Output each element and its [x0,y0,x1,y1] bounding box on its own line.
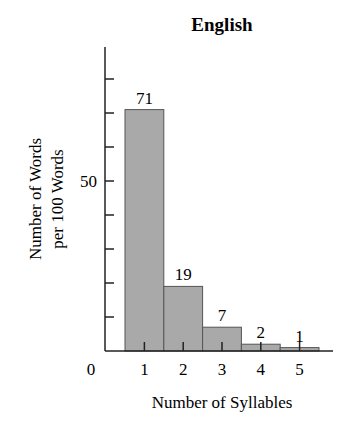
bar-value-label: 2 [257,323,266,342]
y-tick-label: 50 [80,172,97,191]
x-tick-label: 2 [179,360,188,379]
y-axis-title-line-1: Number of Words [26,138,45,260]
syllable-bar-chart: English Number of Words per 100 Words 71… [0,0,345,432]
bar-1 [125,110,164,351]
bar-2 [164,286,203,351]
bar-value-label: 19 [175,265,192,284]
chart-title: English [191,14,253,35]
y-axis-title-line-2: per 100 Words [48,149,67,248]
y-tick-label: 0 [87,360,96,379]
y-axis-title: Number of Words per 100 Words [26,138,67,260]
bar-value-label: 7 [218,306,227,325]
x-tick-label: 1 [140,360,149,379]
x-axis-title: Number of Syllables [152,393,293,412]
x-tick-label: 4 [257,360,266,379]
x-tick-label: 3 [218,360,227,379]
bar-value-label: 1 [295,327,304,346]
x-tick-label: 5 [295,360,304,379]
bar-value-label: 71 [136,89,153,108]
